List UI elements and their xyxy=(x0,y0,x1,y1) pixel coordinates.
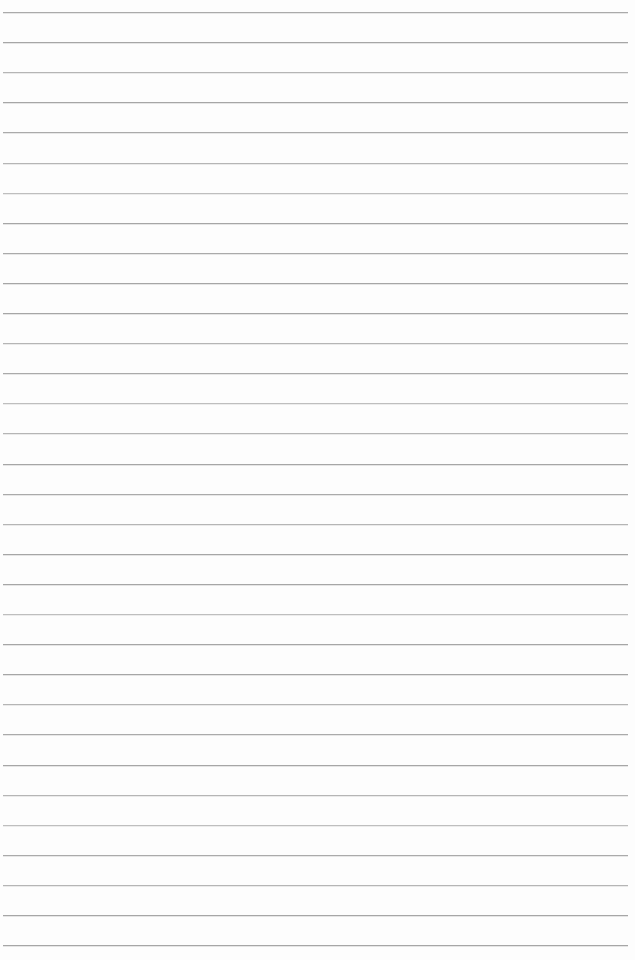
ruled-line xyxy=(3,584,628,585)
ruled-line xyxy=(3,945,628,946)
ruled-line xyxy=(3,403,628,404)
ruled-line xyxy=(3,734,628,735)
notebook-page xyxy=(0,0,635,960)
ruled-line xyxy=(3,72,628,73)
ruled-line xyxy=(3,644,628,645)
ruled-line xyxy=(3,704,628,705)
ruled-line xyxy=(3,554,628,555)
ruled-line xyxy=(3,524,628,525)
ruled-line xyxy=(3,253,628,254)
ruled-line xyxy=(3,132,628,133)
ruled-line xyxy=(3,163,628,164)
ruled-line xyxy=(3,313,628,314)
ruled-line xyxy=(3,12,628,13)
ruled-lines xyxy=(0,0,635,960)
ruled-line xyxy=(3,614,628,615)
ruled-line xyxy=(3,102,628,103)
ruled-line xyxy=(3,223,628,224)
ruled-line xyxy=(3,464,628,465)
ruled-line xyxy=(3,765,628,766)
ruled-line xyxy=(3,915,628,916)
ruled-line xyxy=(3,855,628,856)
ruled-line xyxy=(3,283,628,284)
ruled-line xyxy=(3,42,628,43)
ruled-line xyxy=(3,885,628,886)
ruled-line xyxy=(3,433,628,434)
ruled-line xyxy=(3,494,628,495)
ruled-line xyxy=(3,343,628,344)
ruled-line xyxy=(3,674,628,675)
ruled-line xyxy=(3,373,628,374)
ruled-line xyxy=(3,193,628,194)
ruled-line xyxy=(3,825,628,826)
ruled-line xyxy=(3,795,628,796)
